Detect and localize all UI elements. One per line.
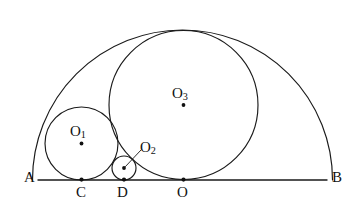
point-dot-o <box>181 178 185 182</box>
center-dot-o1 <box>80 142 84 146</box>
geometry-figure: A B C D O O1 O2 O3 <box>0 0 363 209</box>
label-center-o1-subscript: 1 <box>81 129 86 140</box>
label-point-a: A <box>24 170 35 185</box>
label-center-o3-subscript: 3 <box>183 91 188 102</box>
label-point-c: C <box>76 185 86 200</box>
point-dot-c <box>79 178 83 182</box>
label-point-o: O <box>177 185 188 200</box>
label-center-o2: O2 <box>140 140 156 156</box>
label-center-o2-subscript: 2 <box>151 145 156 156</box>
center-dot-o2 <box>122 166 126 170</box>
label-point-b: B <box>332 170 342 185</box>
label-center-o3: O3 <box>172 86 188 102</box>
label-center-o2-base: O <box>140 139 151 155</box>
label-point-d: D <box>117 185 128 200</box>
label-center-o1-base: O <box>70 123 81 139</box>
figure-canvas <box>0 0 363 209</box>
point-dot-d <box>122 178 126 182</box>
label-center-o1: O1 <box>70 124 86 140</box>
center-dot-o3 <box>182 103 186 107</box>
label-center-o3-base: O <box>172 85 183 101</box>
